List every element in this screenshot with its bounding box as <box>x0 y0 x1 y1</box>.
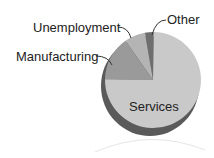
label-other: Other <box>167 13 200 26</box>
pie-chart: Unemployment Manufacturing Other Service… <box>0 0 214 158</box>
label-unemployment: Unemployment <box>33 21 120 34</box>
label-services: Services <box>129 100 179 113</box>
label-manufacturing: Manufacturing <box>16 50 98 63</box>
